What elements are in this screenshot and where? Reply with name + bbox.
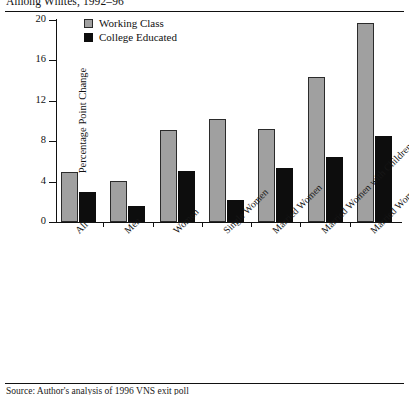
x-tick-4 xyxy=(251,222,252,227)
legend-item-working-class: Working Class xyxy=(84,16,177,30)
y-tick-label-16: 16 xyxy=(0,53,46,64)
y-tick-label-4: 4 xyxy=(0,175,46,186)
bar-working-class-3 xyxy=(209,119,226,222)
y-tick-label-12: 12 xyxy=(0,94,46,105)
legend-label-working-class: Working Class xyxy=(99,17,164,29)
figure-title: Among Whites, 1992–96 xyxy=(6,0,124,7)
y-tick-label-0: 0 xyxy=(0,215,46,226)
bar-working-class-1 xyxy=(110,181,127,222)
y-tick-20 xyxy=(49,20,56,21)
x-tick-3 xyxy=(202,222,203,227)
y-tick-16 xyxy=(49,60,56,61)
y-tick-label-8: 8 xyxy=(0,134,46,145)
x-tick-6 xyxy=(350,222,351,227)
x-tick-2 xyxy=(153,222,154,227)
bar-working-class-4 xyxy=(258,129,275,222)
legend-swatch-working-class xyxy=(84,19,93,28)
source-note: Source: Author's analysis of 1996 VNS ex… xyxy=(6,386,189,395)
bottom-rule xyxy=(5,383,404,384)
top-rule xyxy=(5,11,404,12)
bar-working-class-0 xyxy=(61,172,78,223)
y-tick-0 xyxy=(49,222,56,223)
y-tick-4 xyxy=(49,182,56,183)
y-tick-8 xyxy=(49,141,56,142)
chart-legend: Working Class College Educated xyxy=(84,16,177,44)
y-axis-label: Percentage Point Change xyxy=(77,26,88,216)
bar-working-class-2 xyxy=(160,130,177,222)
plot-area: Percentage Point Change xyxy=(56,20,401,222)
x-tick-1 xyxy=(103,222,104,227)
y-tick-12 xyxy=(49,101,56,102)
legend-label-college-educated: College Educated xyxy=(99,31,177,43)
y-tick-label-20: 20 xyxy=(0,13,46,24)
figure-container: Among Whites, 1992–96 048121620 Percenta… xyxy=(0,0,409,395)
legend-swatch-college-educated xyxy=(84,33,93,42)
x-tick-5 xyxy=(300,222,301,227)
legend-item-college-educated: College Educated xyxy=(84,30,177,44)
